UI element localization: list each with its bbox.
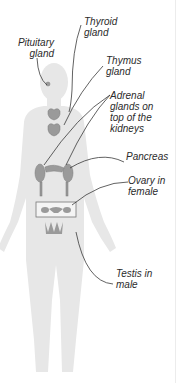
label-thyroid: Thyroid gland xyxy=(84,16,117,38)
endocrine-diagram: Pituitary gland Thyroid gland Thymus gla… xyxy=(0,0,183,383)
label-pituitary: Pituitary gland xyxy=(8,37,54,59)
label-adrenal: Adrenal glands on top of the kidneys xyxy=(110,90,153,134)
label-pancreas: Pancreas xyxy=(126,151,168,162)
label-thymus: Thymus gland xyxy=(106,55,142,77)
page-edge xyxy=(175,0,176,383)
label-testis: Testis in male xyxy=(116,268,152,290)
label-ovary: Ovary in female xyxy=(128,175,165,197)
ovary-inset xyxy=(36,202,76,217)
